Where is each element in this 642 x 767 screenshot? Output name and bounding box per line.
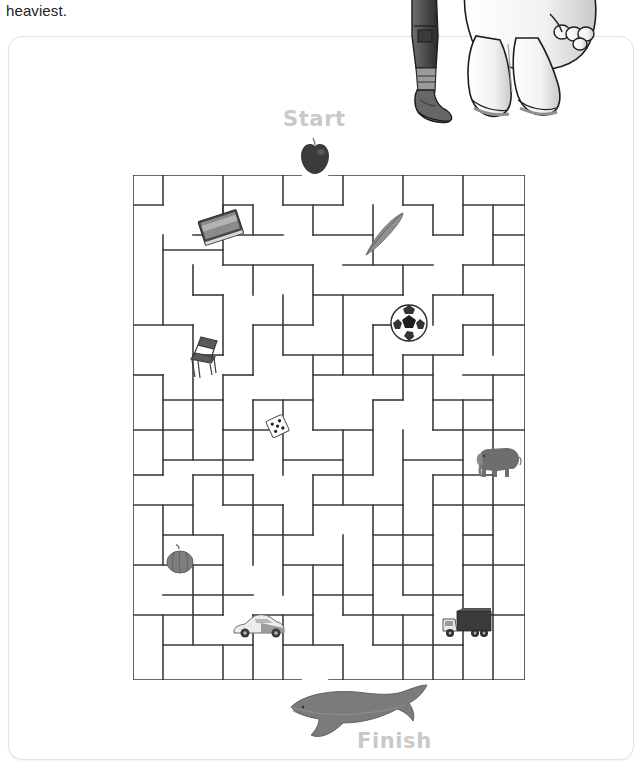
page-root: heaviest. Start Finish [0,0,642,767]
maze-grid [133,175,525,680]
apple-icon [297,137,333,175]
maze-finish-label: Finish [357,729,432,753]
worksheet-card: Start Finish [8,36,634,760]
maze-walls-svg [133,175,525,680]
instruction-text: heaviest. [6,2,67,19]
maze-start-label: Start [283,107,346,131]
